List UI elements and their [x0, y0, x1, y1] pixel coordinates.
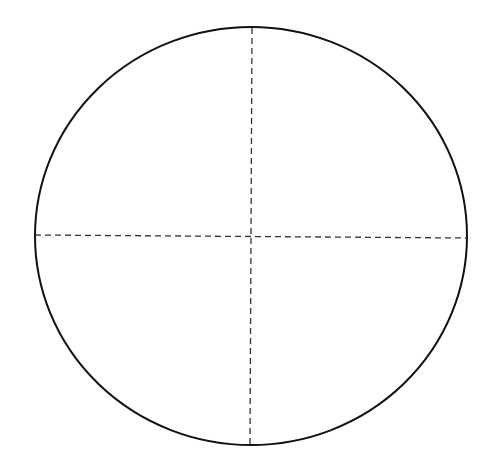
- horizontal-dashed-axis: [35, 235, 467, 238]
- circle-diagram: [0, 0, 496, 473]
